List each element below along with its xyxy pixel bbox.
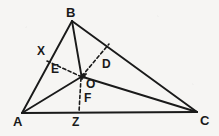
cevian-O-to-C (83, 77, 197, 112)
point-label-o: O (86, 78, 95, 90)
point-label-x: X (37, 45, 45, 57)
point-label-d: D (102, 58, 111, 70)
point-label-z: Z (72, 116, 79, 128)
dashed-O-to-Z (79, 78, 81, 112)
cevian-B-to-AC (72, 21, 82, 79)
side-AC (22, 112, 197, 113)
point-label-a: A (13, 115, 22, 128)
side-AB (22, 21, 72, 113)
intersection-point-O (80, 73, 85, 78)
point-label-e: E (51, 63, 59, 75)
geometry-figure: ABCDEFOXZ (0, 0, 219, 136)
point-label-b: B (66, 6, 75, 19)
point-label-f: F (84, 92, 91, 104)
point-label-c: C (200, 114, 209, 127)
markers-group (80, 73, 85, 78)
